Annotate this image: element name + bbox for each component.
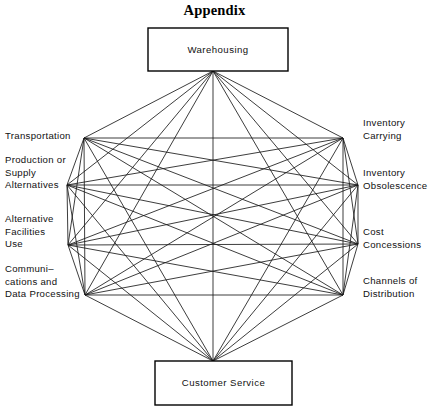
graph-edge [67, 185, 213, 361]
graph-edge [67, 185, 343, 295]
graph-edge [68, 138, 343, 245]
node-label-channels-distribution: Channels of Distribution [363, 275, 418, 300]
graph-edge [67, 71, 213, 185]
graph-edge [85, 244, 358, 295]
node-label-customer-service: Customer Service [155, 377, 292, 388]
graph-edge [343, 244, 358, 295]
graph-edge [67, 138, 343, 185]
graph-edge [84, 138, 85, 295]
node-label-cost-concessions: Cost Concessions [363, 226, 421, 251]
graph-edge [84, 138, 358, 185]
network-graph-svg [0, 0, 429, 414]
appendix-figure: Appendix Warehousing Customer Service Tr… [0, 0, 429, 414]
graph-edge [213, 71, 358, 185]
graph-edge [213, 71, 358, 244]
edge-layer [67, 71, 358, 361]
node-label-production-supply: Production or Supply Alternatives [5, 154, 66, 192]
node-label-inventory-carrying: Inventory Carrying [363, 117, 405, 142]
graph-edge [67, 185, 68, 245]
node-label-inventory-obsolescence: Inventory Obsolescence [363, 167, 427, 192]
node-label-warehousing: Warehousing [148, 44, 288, 55]
graph-edge [85, 185, 358, 295]
graph-edge [213, 185, 358, 361]
graph-edge [68, 244, 358, 245]
graph-edge [343, 138, 358, 185]
node-label-communications: Communi– cations and Data Processing [5, 263, 80, 301]
node-label-transportation: Transportation [5, 130, 71, 143]
graph-edge [343, 185, 358, 295]
graph-edge [343, 138, 358, 244]
graph-edge [68, 71, 213, 245]
node-label-alternative-facilities: Alternative Facilities Use [5, 213, 54, 251]
graph-edge [68, 245, 213, 361]
graph-edge [213, 244, 358, 361]
